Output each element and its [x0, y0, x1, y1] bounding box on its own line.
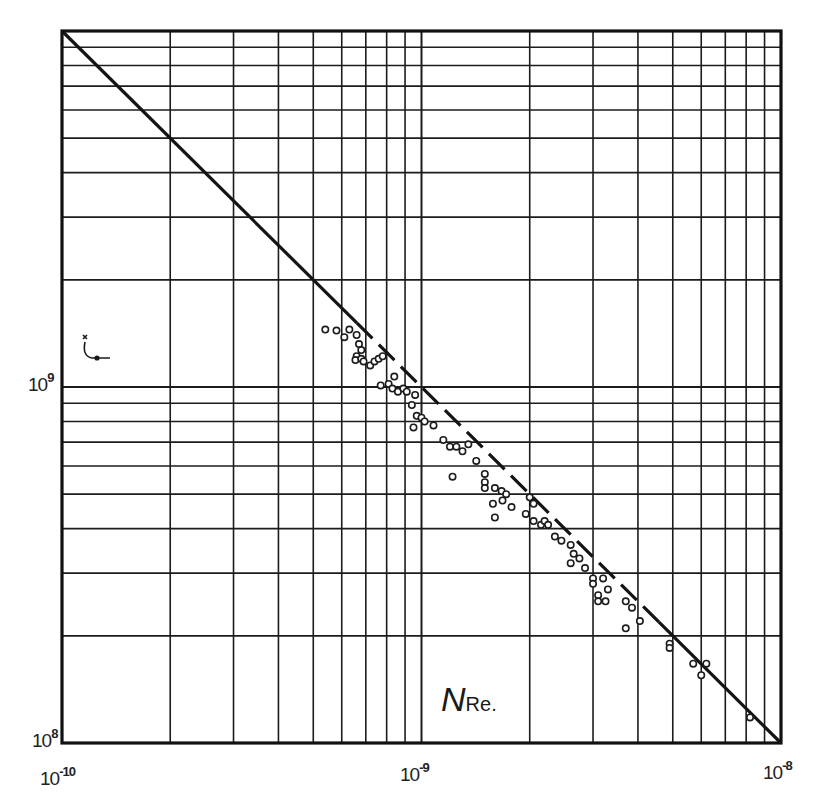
data-point-circle [508, 504, 514, 510]
data-point-circle [353, 332, 359, 338]
data-point-circle [567, 560, 573, 566]
data-point-circle [523, 511, 529, 517]
data-point-circle [440, 437, 446, 443]
data-point-circle [623, 625, 629, 631]
data-point-circle [703, 661, 709, 667]
data-point-circle [410, 424, 416, 430]
data-point-circle [482, 471, 488, 477]
x-tick-label-1e-10: 10-10 [40, 766, 75, 790]
data-point-circle [698, 672, 704, 678]
data-point-circle [465, 441, 471, 447]
data-point-circle [360, 358, 366, 364]
x-axis-label-subscript: Re. [466, 693, 497, 715]
x-tick-label-1e-9: 10-9 [400, 762, 429, 786]
data-point-circle [447, 443, 453, 449]
data-point-circle [341, 334, 347, 340]
data-point-circle [666, 645, 672, 651]
data-point-circle [391, 373, 397, 379]
data-point-circle [409, 402, 415, 408]
chart-plot-area [0, 0, 827, 799]
ylabel-zeta-star-icon [83, 335, 110, 360]
data-point-circle [333, 327, 339, 333]
y-tick-label-1e8: 108 [32, 728, 57, 752]
data-point-circle [570, 551, 576, 557]
data-point-circle [358, 347, 364, 353]
data-point-circle [530, 501, 536, 507]
data-point-circle [605, 586, 611, 592]
data-point-circle [558, 538, 564, 544]
data-point-circle [492, 485, 498, 491]
data-point-circle [637, 618, 643, 624]
data-point-circle [421, 418, 427, 424]
data-point-circle [490, 501, 496, 507]
data-point-circle [629, 604, 635, 610]
data-point-circle [527, 494, 533, 500]
data-point-circle [346, 326, 352, 332]
data-point-circle [602, 598, 608, 604]
data-point-circle [595, 598, 601, 604]
data-point-circle [545, 522, 551, 528]
data-point-circle [503, 491, 509, 497]
data-point-circle [404, 389, 410, 395]
data-point-circle [600, 575, 606, 581]
data-point-circle [377, 382, 383, 388]
x-axis-label: NRe. [441, 680, 497, 719]
data-point-circle [473, 458, 479, 464]
data-point-circle [453, 443, 459, 449]
data-point-circle [582, 565, 588, 571]
data-point-circle [412, 392, 418, 398]
data-point-circle [492, 514, 498, 520]
data-point-circle [459, 448, 465, 454]
data-point-circle [380, 353, 386, 359]
data-point-circle [322, 326, 328, 332]
data-point-circle [590, 581, 596, 587]
trend-line-dashed [357, 323, 659, 622]
data-point-circle [482, 485, 488, 491]
data-point-circle [499, 497, 505, 503]
data-point-circle [576, 555, 582, 561]
x-tick-label-1e-8: 10-8 [763, 760, 792, 784]
trend-line-solid [659, 622, 781, 743]
data-point-circle [690, 661, 696, 667]
data-point-circle [552, 533, 558, 539]
data-point-circle [430, 422, 436, 428]
data-point-circle [449, 473, 455, 479]
x-axis-label-main: N [441, 680, 466, 718]
data-point-circle [567, 542, 573, 548]
data-point-circle [747, 714, 753, 720]
data-point-circle [530, 518, 536, 524]
data-point-circle [623, 598, 629, 604]
y-tick-label-1e9: 109 [28, 372, 53, 396]
